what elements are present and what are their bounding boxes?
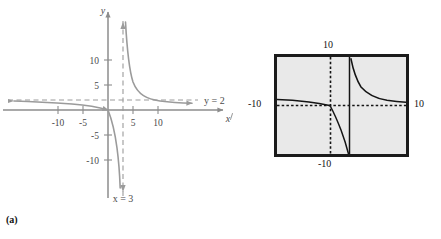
screen-label-bottom: -10 xyxy=(318,158,331,169)
y-tick-label-10: 10 xyxy=(90,56,100,66)
horizontal-asymptote-label: y = 2 xyxy=(204,95,225,106)
screen-label-right: 10 xyxy=(414,98,424,109)
panel-a: -10 -5 5 10 x 10 5 -5 -10 y xyxy=(0,0,246,239)
panel-a-plot: -10 -5 5 10 x 10 5 -5 -10 y xyxy=(0,0,246,205)
curve-left-branch-lower xyxy=(108,110,120,188)
x-axis: -10 -5 5 10 x xyxy=(3,106,231,128)
y-tick-label--5: -5 xyxy=(91,131,99,141)
calculator-screen-svg xyxy=(277,57,406,154)
y-tick-label-5: 5 xyxy=(94,81,99,91)
screen-label-left: -10 xyxy=(248,98,261,109)
screen-label-top: 10 xyxy=(323,39,333,50)
figure-container: -10 -5 5 10 x 10 5 -5 -10 y xyxy=(0,0,441,239)
panel-a-svg: -10 -5 5 10 x 10 5 -5 -10 y xyxy=(0,0,246,205)
x-tick-label-10: 10 xyxy=(153,118,163,128)
vertical-asymptote-arrow-down xyxy=(120,185,125,192)
y-tick-label--10: -10 xyxy=(86,156,99,166)
vertical-asymptote xyxy=(120,18,125,196)
x-tick-label-5: 5 xyxy=(131,118,136,128)
vertical-asymptote-label: x = 3 xyxy=(113,193,134,204)
panel-b: 10 -10 10 -10 (b) xyxy=(246,0,441,239)
curve-right-branch xyxy=(126,22,193,103)
curve-left-branch-upper xyxy=(14,101,108,110)
calculator-screen-frame xyxy=(274,54,409,157)
y-axis-label: y xyxy=(100,5,106,16)
panel-a-caption: (a) xyxy=(6,214,18,225)
calculator-screen xyxy=(277,57,406,154)
x-tick-label--5: -5 xyxy=(79,118,87,128)
x-tick-label--10: -10 xyxy=(52,118,65,128)
y-axis: 10 5 -5 -10 y xyxy=(86,5,112,198)
